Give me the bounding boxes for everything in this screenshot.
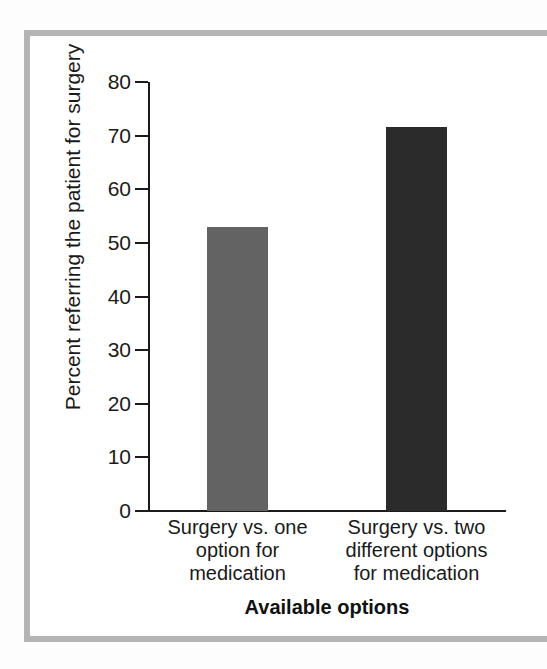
y-tick-label: 20 [87, 393, 131, 414]
y-tick-label: 40 [87, 286, 131, 307]
bar-chart: Percent referring the patient for surger… [0, 0, 547, 669]
y-tick-mark [135, 135, 148, 137]
x-tick-label-1: Surgery vs. oneoption formedication [148, 516, 327, 586]
x-tick-label-line: Surgery vs. one [148, 516, 327, 539]
y-tick-mark [135, 242, 148, 244]
x-tick-label-line: different options [327, 539, 506, 562]
y-tick-mark [135, 403, 148, 405]
y-tick-label: 50 [87, 232, 131, 253]
y-tick-label: 80 [87, 71, 131, 92]
y-tick-mark [135, 510, 148, 512]
x-axis-title: Available options [148, 596, 506, 619]
x-tick-label-line: medication [148, 562, 327, 585]
y-tick-mark [135, 296, 148, 298]
y-tick-mark [135, 349, 148, 351]
y-axis-title-text: Percent referring the patient for surger… [61, 17, 85, 437]
y-tick-label: 70 [87, 125, 131, 146]
y-tick-label: 30 [87, 339, 131, 360]
bars-layer [148, 82, 506, 511]
y-tick-mark [135, 81, 148, 83]
y-tick-mark [135, 456, 148, 458]
x-axis-tick-labels: Surgery vs. oneoption formedicationSurge… [148, 516, 506, 586]
bar-1 [207, 227, 268, 511]
y-tick-mark [135, 188, 148, 190]
y-tick-label: 60 [87, 178, 131, 199]
figure-frame: Percent referring the patient for surger… [0, 0, 547, 669]
y-tick-label: 0 [87, 500, 131, 521]
x-tick-label-2: Surgery vs. twodifferent optionsfor medi… [327, 516, 506, 586]
x-tick-label-line: option for [148, 539, 327, 562]
bar-2 [386, 127, 447, 511]
y-tick-label: 10 [87, 446, 131, 467]
x-tick-label-line: for medication [327, 562, 506, 585]
x-tick-label-line: Surgery vs. two [327, 516, 506, 539]
